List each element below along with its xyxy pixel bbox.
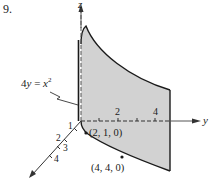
point-2-1-0-label: (2, 1, 0) (89, 127, 123, 139)
equation-leader-line (50, 92, 78, 105)
x-tick-4: 4 (54, 154, 59, 164)
y-tick-4: 4 (153, 106, 158, 117)
point-2-1-0-marker (84, 131, 87, 134)
x-tick-1: 1 (68, 121, 73, 131)
equation-label: 4y = x2 (21, 76, 52, 89)
y-tick-2: 2 (115, 106, 120, 117)
problem-number: 9. (3, 2, 12, 16)
point-4-4-0-label: (4, 4, 0) (91, 162, 125, 174)
y-axis-arrow-icon (192, 119, 201, 124)
point-4-4-0-marker (120, 155, 123, 158)
x-axis (32, 121, 81, 175)
x-tick-2: 2 (56, 133, 61, 143)
parabolic-cylinder-diagram: 9. z y 2 4 1 2 3 4 4y = x2 (2, 1, 0) (0, 0, 213, 179)
surface-region (81, 26, 170, 171)
z-axis-label: z (77, 0, 83, 10)
x-tick-3: 3 (63, 143, 68, 153)
y-axis-label: y (202, 114, 208, 126)
